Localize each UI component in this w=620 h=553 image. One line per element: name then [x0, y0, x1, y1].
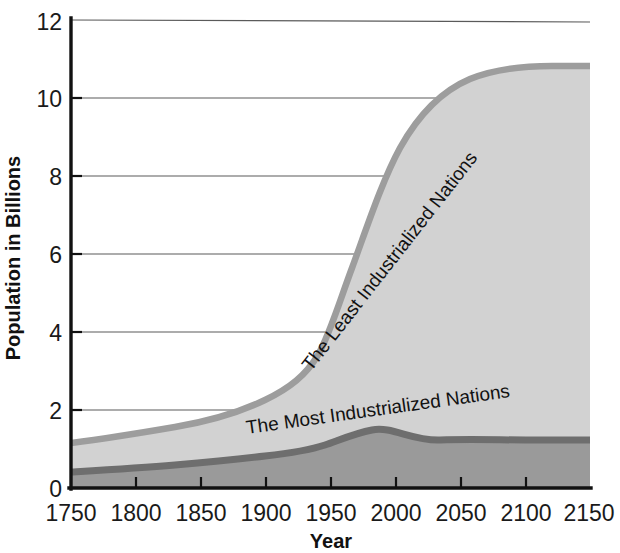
y-tick-label-8: 8	[49, 164, 62, 190]
x-tick-label-1950: 1950	[305, 500, 356, 526]
y-tick-label-12: 12	[36, 9, 62, 35]
y-tick-label-6: 6	[49, 242, 62, 268]
y-axis-title: Population in Billions	[2, 156, 24, 360]
x-tick-label-2000: 2000	[370, 500, 421, 526]
y-tick-label-2: 2	[49, 398, 62, 424]
x-tick-label-2050: 2050	[435, 500, 486, 526]
y-tick-label-0: 0	[49, 476, 62, 502]
population-area-chart: The Least Industrialized Nations The Mos…	[0, 0, 620, 553]
y-tick-label-4: 4	[49, 320, 62, 346]
x-tick-label-2100: 2100	[500, 500, 551, 526]
x-axis-title: Year	[310, 530, 352, 552]
x-tick-label-1900: 1900	[240, 500, 291, 526]
chart-canvas: The Least Industrialized Nations The Mos…	[0, 0, 620, 553]
x-tick-label-2150: 2150	[563, 500, 614, 526]
x-tick-label-1750: 1750	[45, 500, 96, 526]
y-tick-label-10: 10	[36, 86, 62, 112]
x-tick-label-1850: 1850	[175, 500, 226, 526]
x-tick-label-1800: 1800	[110, 500, 161, 526]
